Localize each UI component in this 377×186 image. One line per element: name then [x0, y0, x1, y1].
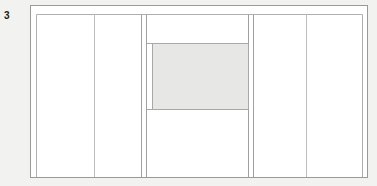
elevation-figure: 3 [0, 0, 377, 186]
center-glazed-panel [153, 44, 249, 110]
elevation-drawing [0, 0, 377, 186]
